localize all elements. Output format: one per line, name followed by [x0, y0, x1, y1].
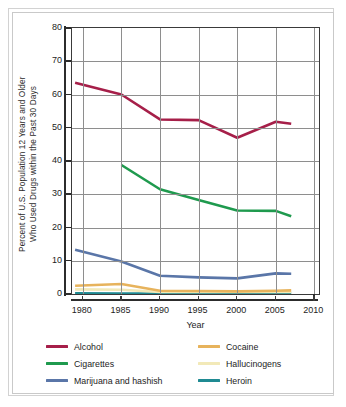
x-tick-1985	[120, 296, 121, 301]
legend-item-cigarettes[interactable]: Cigarettes	[46, 356, 114, 371]
y-tick-label-30: 30	[36, 188, 62, 198]
gridline-x-2005	[276, 28, 277, 294]
y-tick-label-70: 70	[36, 55, 62, 65]
y-tick-label-50: 50	[36, 122, 62, 132]
legend-label: Hallucinogens	[226, 359, 281, 369]
legend-swatch-icon	[198, 379, 220, 382]
y-tick-label-20: 20	[36, 222, 62, 232]
gridline-y-20	[72, 228, 319, 229]
y-tick-label-0: 0	[36, 288, 62, 298]
series-line-marijuana-and-hashish	[75, 250, 291, 279]
y-tick-10	[64, 260, 71, 262]
y-tick-50	[64, 127, 71, 129]
y-tick-60	[64, 94, 71, 96]
gridline-y-40	[72, 161, 319, 162]
gridline-x-2010	[314, 28, 315, 294]
legend-label: Cigarettes	[74, 359, 114, 369]
gridline-y-60	[72, 95, 319, 96]
y-tick-30	[64, 193, 71, 195]
y-tick-label-60: 60	[36, 89, 62, 99]
legend-item-marijuana-and-hashish[interactable]: Marijuana and hashish	[46, 373, 163, 388]
gridline-y-10	[72, 261, 319, 262]
y-tick-label-40: 40	[36, 155, 62, 165]
gridline-x-1980	[83, 28, 84, 294]
plot-area	[71, 27, 320, 295]
x-tick-1995	[198, 296, 199, 301]
legend-swatch-icon	[46, 345, 68, 348]
y-tick-40	[64, 160, 71, 162]
x-tick-label-2005: 2005	[255, 305, 295, 315]
x-tick-label-1995: 1995	[178, 305, 218, 315]
y-tick-0	[64, 293, 71, 295]
legend-item-heroin[interactable]: Heroin	[198, 373, 252, 388]
y-tick-label-10: 10	[36, 255, 62, 265]
legend-item-cocaine[interactable]: Cocaine	[198, 339, 258, 354]
series-line-cigarettes	[121, 165, 291, 216]
gridline-y-50	[72, 128, 319, 129]
x-tick-1980	[82, 296, 83, 301]
x-axis-spine	[71, 294, 320, 301]
y-axis-spine	[64, 26, 71, 296]
x-tick-label-1985: 1985	[100, 305, 140, 315]
x-tick-2000	[236, 296, 237, 301]
x-tick-2010	[313, 296, 314, 301]
gridline-x-1995	[199, 28, 200, 294]
figure-page: Percent of U.S. Population 12 Years and …	[0, 0, 346, 407]
legend-label: Marijuana and hashish	[74, 376, 163, 386]
gridline-y-70	[72, 61, 319, 62]
gridline-y-30	[72, 194, 319, 195]
x-axis-title: Year	[71, 320, 320, 330]
series-line-alcohol	[75, 83, 291, 138]
gridline-x-1990	[160, 28, 161, 294]
x-tick-2005	[275, 296, 276, 301]
chart-legend: AlcoholCigarettesMarijuana and hashishCo…	[46, 339, 316, 391]
x-tick-label-1990: 1990	[139, 305, 179, 315]
gridline-x-2000	[237, 28, 238, 294]
legend-label: Cocaine	[226, 342, 258, 352]
x-tick-label-2010: 2010	[293, 305, 333, 315]
y-axis-title-line-1: Percent of U.S. Population 12 Years and …	[18, 24, 26, 304]
x-axis-line	[71, 299, 318, 301]
legend-label: Heroin	[226, 376, 252, 386]
y-axis-tick-labels: 01020304050607080	[36, 27, 62, 295]
x-tick-label-2000: 2000	[216, 305, 256, 315]
y-tick-20	[64, 227, 71, 229]
x-tick-label-1980: 1980	[62, 305, 102, 315]
line-chart: Percent of U.S. Population 12 Years and …	[0, 0, 346, 407]
y-tick-label-80: 80	[36, 22, 62, 32]
x-tick-1990	[159, 296, 160, 301]
legend-swatch-icon	[46, 379, 68, 382]
gridline-x-1985	[121, 28, 122, 294]
legend-item-alcohol[interactable]: Alcohol	[46, 339, 103, 354]
y-tick-70	[64, 60, 71, 62]
legend-swatch-icon	[46, 362, 68, 365]
legend-swatch-icon	[198, 345, 220, 348]
y-tick-80	[64, 27, 71, 29]
legend-label: Alcohol	[74, 342, 103, 352]
legend-swatch-icon	[198, 362, 220, 365]
legend-item-hallucinogens[interactable]: Hallucinogens	[198, 356, 281, 371]
